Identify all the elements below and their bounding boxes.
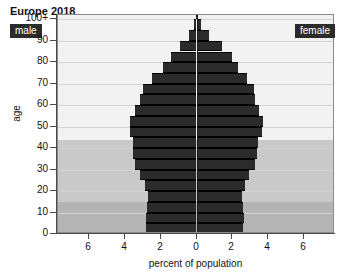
bar-female-75-79 <box>197 62 238 73</box>
y-tick-label-0: 0 <box>2 228 48 238</box>
bar-row <box>58 41 333 52</box>
y-tick-30 <box>50 169 56 170</box>
bar-male-60-64 <box>140 94 196 105</box>
bar-row <box>58 62 333 73</box>
bar-female-50-54 <box>197 116 263 127</box>
bar-male-15-19 <box>148 191 196 202</box>
y-tick-0 <box>50 233 56 234</box>
x-tick-4-female <box>267 234 268 239</box>
y-tick-label-10: 10 <box>2 207 48 217</box>
y-tick-80 <box>50 61 56 62</box>
bar-female-35-39 <box>197 148 258 159</box>
bar-female-15-19 <box>197 191 243 202</box>
bar-male-20-24 <box>145 180 197 191</box>
bar-male-85-89 <box>180 41 196 52</box>
y-tick-70 <box>50 83 56 84</box>
x-tick-2-female <box>231 234 232 239</box>
x-tick-label-2: 2 <box>150 241 170 252</box>
x-tick-0-center <box>196 234 197 239</box>
bar-row <box>58 73 333 84</box>
y-tick-label-70: 70 <box>2 78 48 88</box>
y-tick-label-90: 90 <box>2 35 48 45</box>
bar-row <box>58 84 333 95</box>
bar-row <box>58 127 333 138</box>
bar-female-45-49 <box>197 127 262 138</box>
bar-female-70-74 <box>197 73 248 84</box>
y-tick-40 <box>50 147 56 148</box>
center-axis-line <box>197 15 198 232</box>
x-axis-title: percent of population <box>57 258 334 269</box>
plot-area <box>57 14 334 233</box>
bar-row <box>58 30 333 41</box>
x-tick-label-6: 6 <box>293 241 313 252</box>
y-tick-50 <box>50 126 56 127</box>
bar-male-55-59 <box>135 105 197 116</box>
population-pyramid-figure: Europe 2018 male female 0102030405060708… <box>0 0 343 275</box>
x-tick-label-1: 4 <box>114 241 134 252</box>
x-tick-label-0: 6 <box>78 241 98 252</box>
bar-male-25-29 <box>140 170 196 181</box>
bar-female-85-89 <box>197 41 222 52</box>
x-tick-2-male <box>160 234 161 239</box>
bar-row <box>58 159 333 170</box>
x-tick-4-male <box>124 234 125 239</box>
bar-male-80-84 <box>171 52 197 63</box>
y-tick-10 <box>50 212 56 213</box>
bar-row <box>58 202 333 213</box>
y-tick-label-60: 60 <box>2 99 48 109</box>
y-tick-label-20: 20 <box>2 185 48 195</box>
y-tick-100 <box>50 18 56 19</box>
y-tick-label-100: 100+ <box>2 13 48 23</box>
bar-female-25-29 <box>197 170 250 181</box>
bar-row <box>58 94 333 105</box>
bar-male-5-9 <box>146 213 197 224</box>
y-tick-label-50: 50 <box>2 121 48 131</box>
y-tick-90 <box>50 40 56 41</box>
bar-row <box>58 180 333 191</box>
bar-row <box>58 52 333 63</box>
bar-row <box>58 137 333 148</box>
y-tick-label-40: 40 <box>2 142 48 152</box>
bar-female-60-64 <box>197 94 256 105</box>
bar-male-0-4 <box>146 223 197 233</box>
bar-row <box>58 148 333 159</box>
bar-female-30-34 <box>197 159 255 170</box>
bar-female-65-69 <box>197 84 254 95</box>
bar-female-55-59 <box>197 105 260 116</box>
bar-row <box>58 15 333 19</box>
x-tick-6-male <box>88 234 89 239</box>
bar-male-65-69 <box>143 84 197 95</box>
bar-male-40-44 <box>133 137 196 148</box>
bar-row <box>58 105 333 116</box>
bar-row <box>58 223 333 233</box>
bar-female-20-24 <box>197 180 245 191</box>
bar-row <box>58 116 333 127</box>
x-tick-label-4: 2 <box>221 241 241 252</box>
bar-male-50-54 <box>130 116 196 127</box>
y-tick-20 <box>50 190 56 191</box>
bar-female-40-44 <box>197 137 259 148</box>
bar-male-30-34 <box>135 159 197 170</box>
bar-male-70-74 <box>152 73 197 84</box>
bar-female-80-84 <box>197 52 233 63</box>
bar-row <box>58 191 333 202</box>
bar-row <box>58 170 333 181</box>
x-tick-label-5: 4 <box>257 241 277 252</box>
x-tick-label-3: 0 <box>186 241 206 252</box>
bar-female-10-14 <box>197 202 243 213</box>
bar-row <box>58 19 333 30</box>
bar-male-45-49 <box>130 127 196 138</box>
bar-female-0-4 <box>197 223 243 233</box>
y-tick-label-30: 30 <box>2 164 48 174</box>
x-tick-6-female <box>303 234 304 239</box>
bar-female-90-94 <box>197 30 210 41</box>
y-axis-line <box>56 14 57 234</box>
bar-male-10-14 <box>147 202 196 213</box>
bar-male-75-79 <box>163 62 196 73</box>
bar-male-35-39 <box>133 148 196 159</box>
legend-badge-female: female <box>295 24 335 38</box>
bar-female-5-9 <box>197 213 244 224</box>
bar-male-90-94 <box>189 30 196 41</box>
y-tick-label-80: 80 <box>2 56 48 66</box>
bar-row <box>58 213 333 224</box>
